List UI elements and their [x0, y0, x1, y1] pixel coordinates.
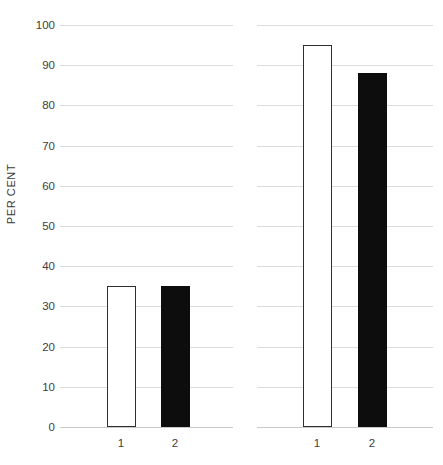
axis-baseline: [257, 427, 433, 428]
y-tick-label-100: 100: [3, 19, 55, 31]
gridline-80: [60, 105, 233, 106]
axis-baseline: [60, 427, 233, 428]
gridline-20: [60, 347, 233, 348]
y-tick-label-0: 0: [3, 421, 55, 433]
y-tick-label-10: 10: [3, 381, 55, 393]
gridline-30: [257, 306, 433, 307]
gridline-90: [60, 65, 233, 66]
bar-panel-right-1: [303, 45, 332, 427]
y-tick-label-40: 40: [3, 260, 55, 272]
bar-chart: PER CENT 0102030405060708090100 1212: [0, 0, 443, 465]
y-tick-label-20: 20: [3, 341, 55, 353]
gridline-30: [60, 306, 233, 307]
panel-left: 12: [60, 0, 233, 465]
x-tick-label-panel-right-2: 2: [369, 437, 375, 449]
y-tick-label-50: 50: [3, 220, 55, 232]
gridline-10: [257, 387, 433, 388]
gridline-100: [60, 25, 233, 26]
y-tick-label-80: 80: [3, 99, 55, 111]
x-tick-label-panel-right-1: 1: [314, 437, 320, 449]
y-tick-label-30: 30: [3, 300, 55, 312]
gridline-100: [257, 25, 433, 26]
gridline-90: [257, 65, 433, 66]
gridline-80: [257, 105, 433, 106]
gridline-40: [257, 266, 433, 267]
gridline-20: [257, 347, 433, 348]
panel-right: 12: [257, 0, 433, 465]
gridline-50: [257, 226, 433, 227]
y-tick-label-90: 90: [3, 59, 55, 71]
gridline-60: [60, 186, 233, 187]
y-tick-label-60: 60: [3, 180, 55, 192]
x-tick-label-panel-left-2: 2: [172, 437, 178, 449]
x-tick-label-panel-left-1: 1: [118, 437, 124, 449]
gridline-70: [60, 146, 233, 147]
gridline-40: [60, 266, 233, 267]
bar-panel-left-2: [161, 286, 190, 427]
gridline-60: [257, 186, 433, 187]
y-axis-tick-labels: 0102030405060708090100: [0, 0, 55, 465]
gridline-10: [60, 387, 233, 388]
gridline-70: [257, 146, 433, 147]
gridline-50: [60, 226, 233, 227]
y-tick-label-70: 70: [3, 140, 55, 152]
bar-panel-left-1: [107, 286, 136, 427]
bar-panel-right-2: [358, 73, 387, 427]
